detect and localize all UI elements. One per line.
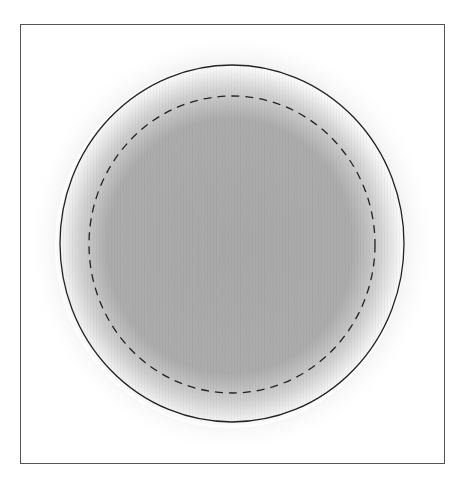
diagram-canvas [0, 0, 462, 480]
stripe-texture [60, 64, 404, 422]
